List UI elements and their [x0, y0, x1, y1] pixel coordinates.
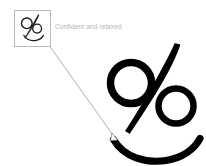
caption-label: Confident and relaxed [55, 22, 122, 31]
drawing-thumbnail[interactable] [14, 10, 51, 47]
drawing-canvas[interactable]: Confident and relaxed [0, 0, 206, 166]
leader-line-arrowhead-icon [111, 133, 118, 141]
thumbnail-artwork [15, 11, 50, 46]
leader-line[interactable] [50, 47, 115, 139]
